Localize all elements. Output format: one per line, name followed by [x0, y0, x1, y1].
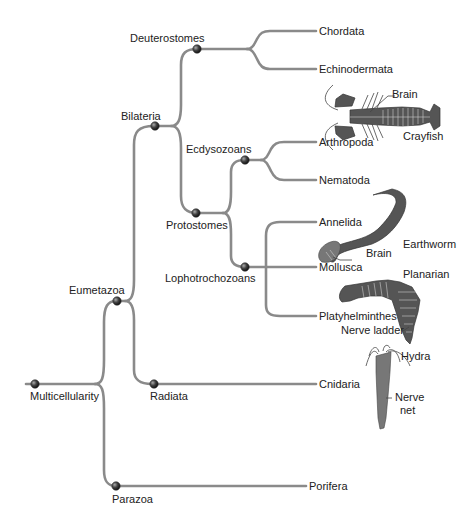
label-earthworm: Earthworm — [403, 238, 456, 251]
node-eumetazoa[interactable] — [113, 297, 121, 305]
label-multicellularity: Multicellularity — [30, 390, 99, 403]
branch-to-radiata — [125, 301, 152, 384]
label-nerve-net-line1: Nerve — [395, 391, 424, 404]
label-eumetazoa: Eumetazoa — [69, 284, 125, 297]
branch-to-ecdysozoans — [223, 160, 245, 213]
label-ecdysozoans: Ecdysozoans — [186, 143, 251, 156]
tip-annelida[interactable]: Annelida — [319, 216, 362, 229]
tip-porifera[interactable]: Porifera — [309, 480, 348, 493]
node-lophotrochozoans[interactable] — [241, 263, 249, 271]
label-hydra: Hydra — [401, 350, 430, 363]
label-protostomes: Protostomes — [166, 219, 228, 232]
tip-platyhelminthes[interactable]: Platyhelminthes — [319, 310, 397, 323]
node-deuterostomes[interactable] — [193, 45, 201, 53]
node-protostomes[interactable] — [192, 209, 200, 217]
branch-arthropoda — [261, 142, 316, 160]
label-lophotrochozoans: Lophotrochozoans — [165, 272, 256, 285]
tip-chordata[interactable]: Chordata — [319, 25, 364, 38]
tip-echinodermata[interactable]: Echinodermata — [319, 63, 393, 76]
label-planarian: Planarian — [403, 268, 449, 281]
branch-nematoda — [261, 160, 316, 180]
label-nerve-ladder: Nerve ladder — [341, 324, 404, 337]
label-crayfish: Crayfish — [403, 130, 443, 143]
label-radiata: Radiata — [150, 390, 188, 403]
node-parazoa[interactable] — [112, 482, 120, 490]
label-crayfish-brain: Brain — [392, 88, 418, 101]
branch-echinodermata — [247, 49, 316, 69]
branch-platyhelminthes — [266, 267, 316, 316]
label-earthworm-brain: Brain — [366, 247, 392, 260]
node-bilateria[interactable] — [151, 122, 159, 130]
branch-annelida — [266, 222, 316, 267]
tip-cnidaria[interactable]: Cnidaria — [319, 378, 360, 391]
branch-to-bilateria — [118, 126, 154, 301]
node-radiata[interactable] — [150, 380, 158, 388]
label-parazoa: Parazoa — [112, 493, 153, 506]
node-ecdysozoans[interactable] — [241, 156, 249, 164]
label-deuterostomes: Deuterostomes — [130, 32, 205, 45]
label-nerve-net-line2: net — [400, 404, 415, 417]
branch-to-protostomes — [171, 126, 197, 213]
label-bilateria: Bilateria — [121, 110, 161, 123]
node-multicellularity[interactable] — [31, 380, 39, 388]
branch-to-eumetazoa — [95, 301, 116, 384]
tip-mollusca[interactable]: Mollusca — [319, 261, 362, 274]
phylogenetic-tree — [0, 0, 476, 532]
tip-arthropoda[interactable]: Arthropoda — [319, 136, 373, 149]
tip-nematoda[interactable]: Nematoda — [319, 174, 370, 187]
branch-chordata — [247, 31, 316, 49]
